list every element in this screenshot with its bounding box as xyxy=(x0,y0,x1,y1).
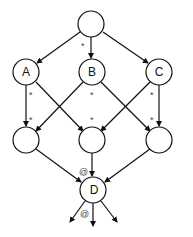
edge-D-out-right xyxy=(101,201,117,222)
node-right xyxy=(146,127,172,153)
star-annotation: * xyxy=(150,90,154,100)
edge-L-D xyxy=(36,149,81,182)
node-d-label: D xyxy=(90,183,99,197)
star-annotation: * xyxy=(90,90,94,100)
star-annotation: * xyxy=(150,115,154,125)
edge-top-C xyxy=(103,32,148,63)
node-a-label: A xyxy=(22,65,30,79)
dag-diagram: A B C D * * * * * * * @ @ xyxy=(0,0,193,237)
at-annotation: @ xyxy=(79,167,88,177)
star-annotation: * xyxy=(81,41,85,51)
star-annotation: * xyxy=(90,115,94,125)
node-b-label: B xyxy=(88,65,96,79)
edge-top-A xyxy=(37,32,80,63)
node-left xyxy=(13,127,39,153)
node-c-label: C xyxy=(155,65,164,79)
star-annotation: * xyxy=(29,115,33,125)
node-top xyxy=(78,11,104,37)
edge-R-D xyxy=(105,149,150,182)
at-annotation: @ xyxy=(80,209,89,219)
star-annotation: * xyxy=(29,90,33,100)
node-middle xyxy=(79,127,105,153)
